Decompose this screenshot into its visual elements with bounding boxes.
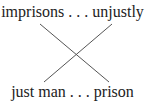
cross-line-1 <box>40 24 109 82</box>
bottom-phrase: just man . . . prison <box>0 83 145 101</box>
cross-line-2 <box>44 24 112 82</box>
